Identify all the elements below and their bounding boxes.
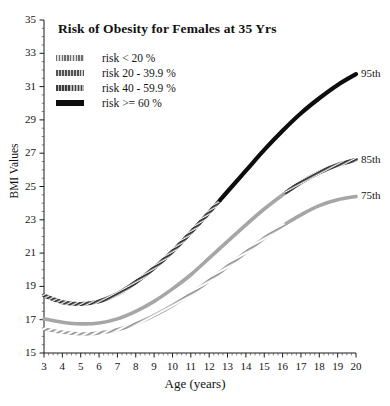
y-tick-label-0: 15 (8, 346, 36, 358)
legend-swatch-icon-3 (56, 100, 84, 106)
y-tick-label-10: 35 (8, 13, 36, 25)
y-tick-label-9: 33 (8, 46, 36, 58)
curve-95th-seg-1 (220, 74, 356, 200)
y-tick-label-1: 17 (8, 313, 36, 325)
legend: risk < 20 % risk 20 - 39.9 % risk 40 - 5… (56, 50, 176, 111)
x-axis-title: Age (years) (0, 376, 390, 392)
legend-item-3: risk >= 60 % (56, 96, 176, 111)
legend-item-2: risk 40 - 59.9 % (56, 80, 176, 95)
x-tick-label-17: 20 (344, 360, 368, 372)
y-tick-label-2: 19 (8, 279, 36, 291)
legend-label-1: risk 20 - 39.9 % (102, 67, 176, 79)
curves (44, 74, 356, 334)
curve-75th-seg-1 (286, 196, 356, 223)
curve-label-75th: 75th (361, 189, 381, 201)
curve-label-85th: 85th (361, 153, 381, 165)
legend-swatch-icon-2 (56, 85, 84, 91)
curve-95th-seg-0 (44, 200, 220, 304)
y-axis-title: BMI Values (8, 126, 20, 216)
curve-85th-seg-1 (286, 160, 356, 192)
curve-75th-seg-0 (44, 223, 286, 333)
obesity-risk-chart: Risk of Obesity for Females at 35 Yrs 15… (0, 0, 390, 406)
y-tick-label-7: 29 (8, 113, 36, 125)
legend-label-0: risk < 20 % (102, 52, 155, 64)
legend-label-2: risk 40 - 59.9 % (102, 82, 176, 94)
curve-label-95th: 95th (361, 67, 381, 79)
legend-item-0: risk < 20 % (56, 50, 176, 65)
legend-swatch-icon-0 (56, 55, 84, 61)
legend-swatch-icon-1 (56, 70, 84, 76)
y-tick-label-8: 31 (8, 80, 36, 92)
legend-item-1: risk 20 - 39.9 % (56, 65, 176, 80)
y-tick-label-3: 21 (8, 246, 36, 258)
legend-label-3: risk >= 60 % (102, 97, 162, 109)
